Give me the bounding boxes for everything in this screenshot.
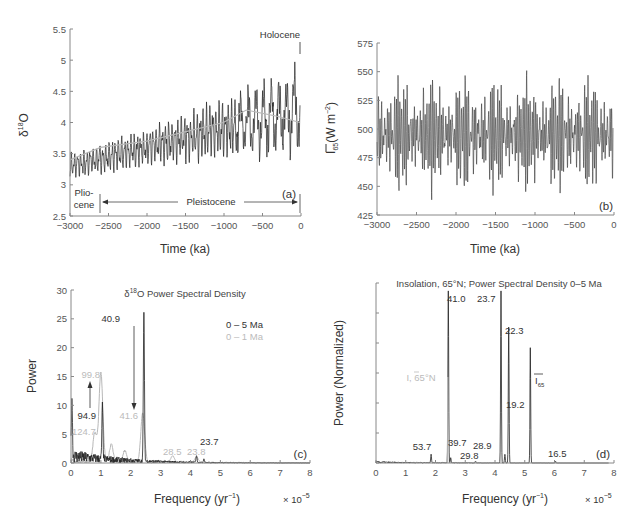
arrowhead-right-icon (292, 200, 298, 205)
panel-b-y-tick: 500 (357, 124, 373, 135)
panel-d-x-tick: 4 (492, 467, 497, 478)
panel-d-x-label: Frequency (yr−1) (462, 492, 548, 506)
pliocene-label-2: cene (74, 199, 95, 210)
panel-a-x-tick: −1500 (172, 220, 199, 231)
pliocene-label-1: Plio- (74, 187, 93, 198)
panel-a: 2.533.544.555.5 −3000−2500−2000−1500−100… (17, 24, 304, 257)
peak-label-16-5: 16.5 (548, 448, 567, 459)
panel-a-x-label: Time (ka) (160, 242, 210, 256)
peak-label-124-7: 124.7 (72, 426, 96, 437)
panel-c-x-tick: 0 (68, 467, 73, 478)
panel-b: 425450475500525550575 −3000−2500−2000−15… (324, 38, 617, 257)
label-i65: I65 (535, 375, 545, 388)
panel-b-y-tick: 575 (357, 38, 373, 49)
panel-a-y-tick: 3 (61, 179, 66, 190)
panel-a-x-tick: −2000 (134, 220, 161, 231)
peak-label-28-9: 28.9 (473, 440, 492, 451)
panel-a-y-tick: 4 (61, 117, 66, 128)
peak-label-23-7: 23.7 (200, 436, 219, 447)
peak-label-39-7: 39.7 (448, 437, 467, 448)
panel-d-y-label: Power (Normalized) (332, 320, 346, 426)
panel-d: 012345678 Insolation, 65°N; Power Spectr… (332, 278, 617, 506)
holocene-label: Holocene (260, 29, 300, 40)
panel-b-y-tick: 475 (357, 152, 373, 163)
panel-c-y-tick: 20 (56, 342, 67, 353)
panel-d-x-tick: 0 (373, 467, 378, 478)
panel-b-x-label: Time (ka) (470, 242, 520, 256)
figure-canvas: 2.533.544.555.5 −3000−2500−2000−1500−100… (0, 0, 644, 532)
panel-a-y-tick: 4.5 (53, 86, 66, 97)
panel-d-x-tick: 6 (552, 467, 557, 478)
panel-b-x-tick: −2000 (443, 219, 470, 230)
peak-label-53-7: 53.7 (413, 441, 432, 452)
panel-a-y-tick: 3.5 (53, 148, 66, 159)
panel-d-x-scale: × 10−5 (585, 492, 612, 505)
panel-c-y-tick: 15 (56, 371, 67, 382)
panel-a-x-tick: −500 (252, 220, 273, 231)
panel-a-x-tick: −1000 (211, 220, 238, 231)
panel-b-y-tick: 550 (357, 66, 373, 77)
panel-c-x-scale: × 10−5 (283, 492, 310, 505)
panel-a-tag: (a) (282, 188, 296, 200)
panel-b-x-tick: −1500 (482, 219, 509, 230)
panel-d-title: Insolation, 65°N; Power Spectral Density… (396, 278, 602, 289)
panel-b-tag: (b) (599, 200, 613, 212)
panel-c-x-tick: 2 (128, 467, 133, 478)
legend-i65: I, 65°N (406, 372, 435, 383)
peak-label-22-3: 22.3 (505, 325, 524, 336)
panel-c-x-tick: 5 (218, 467, 223, 478)
panel-a-y-tick: 5 (61, 55, 66, 66)
panel-b-x-tick: 0 (611, 219, 616, 230)
panel-c-y-tick: 5 (62, 429, 67, 440)
panel-c-y-tick: 25 (56, 313, 67, 324)
panel-c-y-tick: 30 (56, 285, 67, 296)
panel-c-x-tick: 4 (188, 467, 193, 478)
panel-c-title: δ18O Power Spectral Density (124, 287, 246, 299)
panel-b-y-tick: 450 (357, 181, 373, 192)
panel-c-y-tick: 0 (62, 458, 67, 469)
panel-c-x-tick: 1 (98, 467, 103, 478)
arrowhead-left-icon (102, 200, 108, 205)
arrowhead-down-icon (132, 403, 137, 410)
panel-b-x-tick: −500 (564, 219, 585, 230)
panel-a-y-tick: 5.5 (53, 24, 66, 35)
peak-label-99-8: 99.8 (82, 369, 101, 380)
insolation-series (377, 71, 613, 200)
panel-d-x-tick: 8 (611, 467, 616, 478)
peak-label-41-6: 41.6 (120, 410, 139, 421)
panel-d-x-tick: 1 (403, 467, 408, 478)
panel-d-x-tick: 5 (522, 467, 527, 478)
panel-c-tag: (c) (294, 448, 308, 460)
panel-b-y-tick: 525 (357, 95, 373, 106)
panel-c-y-tick: 10 (56, 400, 67, 411)
peak-label-29-8: 29.8 (460, 450, 479, 461)
delta18o-series (70, 62, 300, 177)
panel-c-x-label: Frequency (yr−1) (154, 492, 240, 506)
panel-c-y-label: Power (25, 359, 39, 393)
panel-c-x-tick: 8 (307, 467, 312, 478)
delta18o-psd-series (71, 312, 310, 463)
panel-b-x-tick: −3000 (364, 219, 391, 230)
panel-a-x-tick: −2500 (95, 220, 122, 231)
panel-d-x-tick: 3 (463, 467, 468, 478)
panel-d-x-tick: 7 (582, 467, 587, 478)
legend-0-1ma: 0 – 1 Ma (226, 331, 264, 342)
peak-label-23-7-ins: 23.7 (477, 293, 496, 304)
peak-label-41-0: 41.0 (447, 293, 466, 304)
arrowhead-up-icon (88, 381, 93, 388)
legend-0-5ma: 0 – 5 Ma (226, 319, 264, 330)
peak-label-28-5: 28.5 (163, 446, 182, 457)
peak-label-94-9: 94.9 (78, 410, 97, 421)
panel-c-x-tick: 7 (277, 467, 282, 478)
panel-a-x-tick: 0 (298, 220, 303, 231)
panel-c-x-tick: 3 (158, 467, 163, 478)
panel-b-x-tick: −1000 (522, 219, 549, 230)
peak-label-19-2: 19.2 (506, 399, 525, 410)
panel-d-tag: (d) (596, 448, 610, 460)
pleistocene-label: Pleistocene (186, 196, 235, 207)
panel-d-x-tick: 2 (433, 467, 438, 478)
panel-a-x-tick: −3000 (57, 220, 84, 231)
peak-label-23-8: 23.8 (187, 446, 206, 457)
panel-a-y-label: δ18O (17, 113, 31, 137)
panel-c: 051015202530 012345678 δ18O Power Spectr… (25, 285, 313, 507)
